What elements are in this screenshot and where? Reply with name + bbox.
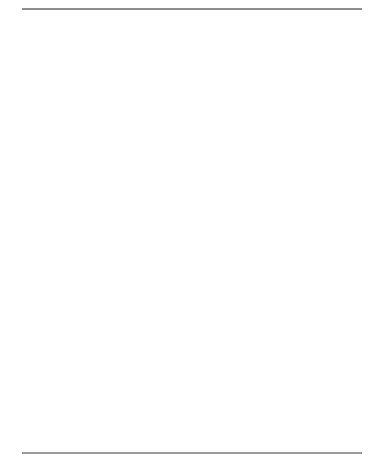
resource-allocation-diagram xyxy=(0,0,382,465)
top-horizontal-rule xyxy=(22,8,362,10)
bottom-horizontal-rule xyxy=(22,452,362,454)
edge-layer xyxy=(0,0,382,465)
